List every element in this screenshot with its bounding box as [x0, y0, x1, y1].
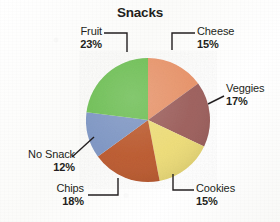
pie-label-cheese-percent: 15%	[197, 38, 234, 51]
pie-label-cheese-name: Cheese	[197, 25, 234, 38]
chart-title: Snacks	[0, 5, 280, 20]
leader-line-fruit	[104, 33, 127, 52]
pie-label-chips: Chips 18%	[38, 182, 84, 207]
pie-label-veggies-percent: 17%	[226, 95, 264, 108]
pie-label-no-snack-percent: 12%	[4, 161, 75, 174]
pie-label-chips-name: Chips	[38, 182, 84, 195]
leader-line-cookies	[173, 174, 194, 190]
pie-label-veggies: Veggies 17%	[226, 82, 264, 107]
pie-chart-figure: Snacks	[0, 0, 280, 222]
pie-label-no-snack: No Snack 12%	[4, 148, 75, 173]
pie-label-veggies-name: Veggies	[226, 82, 264, 95]
pie-label-fruit: Fruit 23%	[58, 25, 102, 50]
pie-label-cookies-name: Cookies	[196, 182, 235, 195]
pie-label-fruit-percent: 23%	[58, 38, 102, 51]
leader-line-cheese	[172, 33, 195, 50]
pie-label-no-snack-name: No Snack	[4, 148, 75, 161]
pie-label-cookies: Cookies 15%	[196, 182, 235, 207]
pie-label-cookies-percent: 15%	[196, 195, 235, 208]
leader-line-chips	[88, 178, 118, 195]
pie-label-chips-percent: 18%	[38, 195, 84, 208]
pie-label-cheese: Cheese 15%	[197, 25, 234, 50]
leader-line-no-snack	[72, 137, 94, 157]
leader-line-veggies	[208, 96, 224, 104]
pie-label-fruit-name: Fruit	[58, 25, 102, 38]
